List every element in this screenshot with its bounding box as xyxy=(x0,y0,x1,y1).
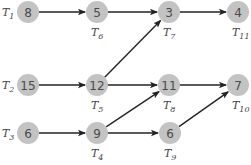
node-value: 5 xyxy=(93,6,101,20)
nodes-layer: 8T15T63T74T1115T212T511T87T106T39T46T9 xyxy=(2,1,250,162)
node-value: 12 xyxy=(89,79,104,93)
task-label: T7 xyxy=(163,26,176,41)
node-value: 4 xyxy=(234,6,242,20)
edges-layer xyxy=(39,12,228,133)
task-dependency-diagram: 8T15T63T74T1115T212T511T87T106T39T46T9 xyxy=(0,0,251,165)
task-label: T6 xyxy=(91,26,103,41)
node-t2: 15T2 xyxy=(2,74,39,96)
node-t7: 3T7 xyxy=(158,1,180,41)
node-t6: 5T6 xyxy=(86,1,108,41)
task-label: T5 xyxy=(91,99,103,114)
task-label: T2 xyxy=(2,79,14,94)
node-value: 3 xyxy=(165,6,173,20)
task-label: T3 xyxy=(2,127,14,142)
node-value: 9 xyxy=(93,127,101,141)
task-label: T4 xyxy=(91,147,103,162)
task-label: T1 xyxy=(2,6,14,21)
task-label: T10 xyxy=(232,99,250,114)
node-t11: 4T11 xyxy=(227,1,250,41)
node-value: 7 xyxy=(234,79,242,93)
node-t1: 8T1 xyxy=(2,1,39,23)
edge-t4-to-t8 xyxy=(106,92,159,127)
node-t8: 11T8 xyxy=(158,74,180,114)
task-label: T9 xyxy=(164,147,176,162)
node-value: 6 xyxy=(166,127,174,141)
node-t10: 7T10 xyxy=(227,74,250,114)
node-t9: 6T9 xyxy=(159,122,181,162)
task-label: T11 xyxy=(232,26,250,41)
task-label: T8 xyxy=(163,99,175,114)
edge-t9-to-t10 xyxy=(179,92,228,127)
edge-t5-to-t7 xyxy=(105,21,161,78)
node-value: 6 xyxy=(24,127,32,141)
node-value: 11 xyxy=(161,79,176,93)
node-value: 15 xyxy=(20,79,35,93)
node-t5: 12T5 xyxy=(86,74,108,114)
node-value: 8 xyxy=(24,6,32,20)
node-t4: 9T4 xyxy=(86,122,108,162)
node-t3: 6T3 xyxy=(2,122,39,144)
